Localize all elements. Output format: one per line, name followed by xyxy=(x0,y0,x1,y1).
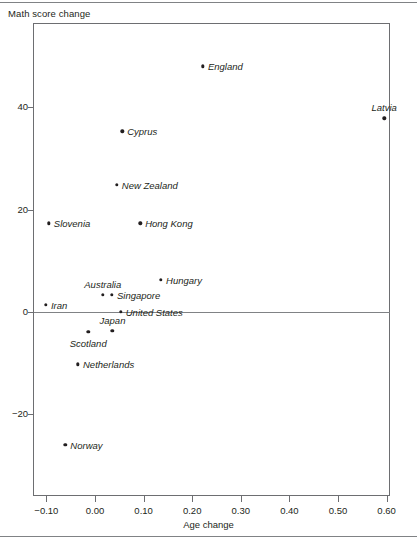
x-axis-tick-label: 0.60 xyxy=(377,505,396,516)
x-axis-tick xyxy=(387,496,388,502)
data-point-label: Iran xyxy=(51,299,67,310)
data-point-label: Cyprus xyxy=(127,126,157,137)
y-axis-tick-label: 0 xyxy=(23,306,28,317)
x-axis-tick-label: 0.00 xyxy=(86,505,105,516)
y-axis-label: Math score change xyxy=(8,8,91,19)
x-axis-tick xyxy=(192,496,193,502)
data-point-label: Singapore xyxy=(117,290,160,301)
x-axis-tick-label: 0.50 xyxy=(329,505,348,516)
y-axis-tick xyxy=(28,414,34,415)
y-axis-tick xyxy=(28,107,34,108)
y-axis-tick-label: −20 xyxy=(12,408,28,419)
x-axis-tick xyxy=(144,496,145,502)
data-point-label: Hungary xyxy=(166,274,202,285)
x-axis-label: Age change xyxy=(0,519,417,530)
x-axis-tick xyxy=(338,496,339,502)
x-axis-tick xyxy=(95,496,96,502)
data-point-label: United States xyxy=(126,307,183,318)
y-axis-tick-label: 40 xyxy=(17,101,28,112)
x-axis-tick-label: 0.40 xyxy=(280,505,299,516)
y-axis-tick-label: 20 xyxy=(17,204,28,215)
data-point-label: Hong Kong xyxy=(145,218,193,229)
bottom-rule xyxy=(0,536,417,537)
x-axis-tick xyxy=(289,496,290,502)
data-point-label: Norway xyxy=(70,439,102,450)
data-point-label: Scotland xyxy=(70,337,107,348)
data-point-label: Australia xyxy=(84,279,121,290)
data-point-label: Japan xyxy=(100,314,126,325)
y-axis-tick xyxy=(28,312,34,313)
zero-reference-line xyxy=(34,312,390,313)
x-axis-tick-label: 0.30 xyxy=(232,505,251,516)
x-axis-tick xyxy=(241,496,242,502)
x-axis-tick-label: 0.10 xyxy=(134,505,153,516)
x-axis-tick xyxy=(46,496,47,502)
data-point-label: Slovenia xyxy=(54,218,90,229)
data-point-label: New Zealand xyxy=(122,179,178,190)
top-rule xyxy=(0,2,417,3)
x-axis-tick-label: 0.20 xyxy=(183,505,202,516)
x-axis-tick-label: −0.10 xyxy=(34,505,58,516)
scatter-plot-figure: Math score change 40200−20−0.100.000.100… xyxy=(0,0,417,543)
data-point-label: Latvia xyxy=(371,102,396,113)
data-point-label: England xyxy=(208,61,243,72)
plot-area xyxy=(33,23,390,496)
data-point-label: Netherlands xyxy=(83,359,134,370)
y-axis-tick xyxy=(28,210,34,211)
